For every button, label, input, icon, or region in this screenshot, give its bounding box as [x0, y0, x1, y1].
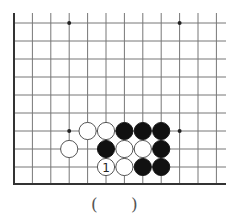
black-stone: [153, 158, 170, 175]
black-stone: [134, 122, 151, 139]
answer-paren-close: ): [131, 194, 138, 214]
white-stone: [97, 122, 114, 139]
black-stone: [134, 158, 151, 175]
white-stone: [116, 140, 133, 157]
star-point-icon: [67, 21, 71, 25]
go-board-diagram: 1: [0, 0, 248, 222]
black-stone: [153, 122, 170, 139]
white-stone: [116, 158, 133, 175]
white-stone: [79, 122, 96, 139]
black-stone: [116, 122, 133, 139]
white-stone: [134, 140, 151, 157]
black-stone: [153, 140, 170, 157]
star-point-icon: [178, 21, 182, 25]
black-stone: [97, 140, 114, 157]
star-point-icon: [178, 129, 182, 133]
answer-paren-open: (: [91, 194, 98, 214]
move-number-label: 1: [102, 161, 110, 175]
star-point-icon: [67, 129, 71, 133]
white-stone: [61, 140, 78, 157]
